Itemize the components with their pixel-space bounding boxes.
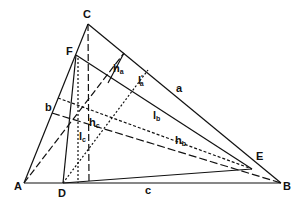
altitude-hc bbox=[88, 24, 89, 183]
line-hb bbox=[52, 113, 281, 183]
segment-label-lb: lb bbox=[153, 109, 160, 122]
side-label-b: b bbox=[45, 101, 52, 113]
side-label-c: c bbox=[145, 184, 151, 196]
vertex-label-D: D bbox=[58, 187, 66, 199]
vertex-label-E: E bbox=[256, 150, 263, 162]
vertex-label-B: B bbox=[283, 180, 291, 192]
segment-DE bbox=[63, 169, 252, 183]
segment-label-hb: hb bbox=[175, 134, 186, 147]
segment-label-ha: ha bbox=[113, 62, 124, 75]
vertex-label-C: C bbox=[83, 8, 91, 20]
vertex-label-F: F bbox=[66, 45, 73, 57]
side-a bbox=[88, 24, 281, 183]
segment-label-hc: hc bbox=[89, 116, 100, 129]
segment-label-lc: lc bbox=[79, 130, 86, 143]
triangle-diagram: A B C D E F a b c ha l′a hc lc lb hb bbox=[0, 0, 298, 206]
segment-DF bbox=[63, 55, 76, 183]
side-label-a: a bbox=[176, 82, 183, 94]
segment-FE bbox=[76, 55, 252, 169]
vertex-label-A: A bbox=[14, 180, 22, 192]
